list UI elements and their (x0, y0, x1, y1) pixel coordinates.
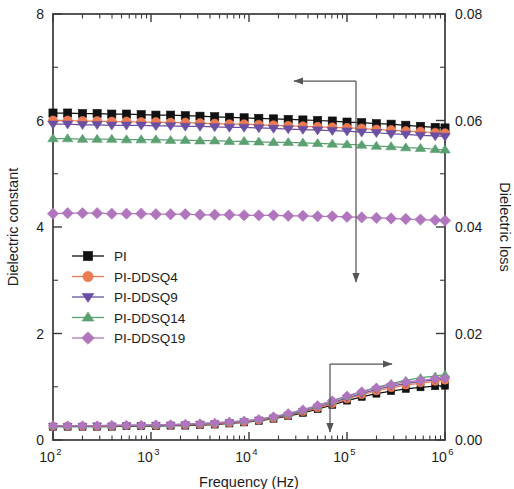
x-tick-label: 10 (333, 449, 349, 465)
data-point-marker (415, 214, 426, 225)
data-point-marker (209, 136, 219, 144)
y-right-tick-labels: 0.000.020.040.060.08 (455, 6, 482, 448)
legend-label: PI-DDSQ9 (114, 290, 178, 305)
y-left-tick-label: 4 (36, 219, 44, 235)
data-point-marker (298, 126, 308, 134)
y-left-tick-label: 2 (36, 326, 44, 342)
data-point-marker (254, 137, 264, 145)
data-point-marker (151, 135, 161, 143)
legend-marker-triangle-up-icon (82, 312, 94, 321)
axes-border (53, 14, 445, 440)
x-tick-label: 10 (137, 449, 153, 465)
data-point-marker (312, 139, 322, 147)
data-point-marker (440, 133, 450, 141)
chart-legend: PIPI-DDSQ4PI-DDSQ9PI-DDSQ14PI-DDSQ19 (72, 249, 186, 346)
data-point-marker (165, 209, 176, 220)
data-point-marker (195, 136, 205, 144)
y-left-tick-label: 8 (36, 6, 44, 22)
data-point-marker (356, 129, 366, 137)
data-point-marker (195, 123, 205, 131)
legend-item-pi-ddsq19[interactable]: PI-DDSQ19 (72, 331, 185, 346)
dielectric-chart-figure: 102103104105106Frequency (Hz)02468Dielec… (0, 0, 514, 489)
data-point-marker (77, 122, 87, 130)
data-point-marker (254, 125, 264, 133)
data-point-marker (239, 136, 249, 144)
data-point-marker (224, 209, 235, 220)
data-point-marker (297, 210, 308, 221)
data-point-marker (136, 122, 146, 130)
x-tick-exponent: 6 (448, 446, 453, 457)
data-point-marker (77, 134, 87, 142)
x-tick-exponent: 5 (350, 446, 355, 457)
data-series-layer (47, 109, 450, 431)
x-axis-tick-labels: 102103104105106 (39, 446, 453, 465)
legend-item-pi-ddsq14[interactable]: PI-DDSQ14 (72, 311, 186, 326)
data-point-marker (151, 123, 161, 131)
data-point-marker (91, 207, 102, 218)
legend-label: PI-DDSQ19 (114, 331, 185, 346)
data-point-marker (268, 125, 278, 133)
y-right-tick-label: 0.00 (455, 432, 482, 448)
data-point-marker (268, 210, 279, 221)
y-left-axis-ticks (53, 14, 62, 440)
x-tick-label: 10 (235, 449, 251, 465)
data-point-marker (327, 139, 337, 147)
data-point-marker (327, 127, 337, 135)
x-tick-label: 10 (431, 449, 447, 465)
x-axis-ticks (53, 14, 445, 440)
data-point-marker (121, 122, 131, 130)
data-point-marker (136, 208, 147, 219)
data-point-marker (386, 131, 396, 139)
data-point-marker (430, 214, 441, 225)
data-point-marker (107, 122, 117, 130)
series-line (53, 375, 445, 426)
data-point-marker (283, 126, 293, 134)
data-point-marker (106, 208, 117, 219)
data-point-marker (180, 135, 190, 143)
legend-item-pi[interactable]: PI (72, 249, 127, 264)
data-point-marker (62, 134, 72, 142)
data-point-marker (386, 142, 396, 150)
data-point-marker (342, 140, 352, 148)
x-axis-title: Frequency (Hz) (199, 474, 299, 489)
data-point-marker (194, 209, 205, 220)
data-point-marker (268, 138, 278, 146)
data-point-marker (92, 134, 102, 142)
data-point-marker (121, 208, 132, 219)
series-pi-ddsq19-left (47, 207, 450, 226)
data-point-marker (92, 122, 102, 130)
chart-canvas: 102103104105106Frequency (Hz)02468Dielec… (0, 0, 514, 489)
data-point-marker (283, 138, 293, 146)
legend-item-pi-ddsq4[interactable]: PI-DDSQ4 (72, 270, 178, 285)
data-point-marker (150, 209, 161, 220)
data-point-marker (312, 127, 322, 135)
data-point-marker (77, 207, 88, 218)
data-point-marker (371, 212, 382, 223)
x-tick-exponent: 2 (56, 446, 61, 457)
y-right-tick-label: 0.08 (455, 6, 482, 22)
y-left-tick-label: 6 (36, 113, 44, 129)
data-point-marker (312, 211, 323, 222)
data-point-marker (165, 123, 175, 131)
data-point-marker (209, 209, 220, 220)
data-point-marker (356, 212, 367, 223)
data-point-marker (209, 124, 219, 132)
legend-marker-triangle-down-icon (82, 293, 94, 302)
legend-marker-circle-icon (83, 271, 93, 281)
data-point-marker (47, 208, 58, 219)
data-point-marker (48, 121, 58, 129)
legend-item-pi-ddsq9[interactable]: PI-DDSQ9 (72, 290, 178, 305)
data-point-marker (62, 207, 73, 218)
data-point-marker (341, 211, 352, 222)
data-point-marker (224, 136, 234, 144)
data-point-marker (62, 121, 72, 129)
data-point-marker (385, 213, 396, 224)
legend-marker-diamond-icon (82, 332, 95, 345)
y-left-axis-title: Dielectric constant (5, 168, 21, 286)
data-point-marker (283, 210, 294, 221)
y-right-axis-title: Dielectric loss (497, 182, 513, 271)
data-point-marker (136, 135, 146, 143)
data-point-marker (253, 210, 264, 221)
data-point-marker (48, 134, 58, 142)
data-point-marker (180, 123, 190, 131)
